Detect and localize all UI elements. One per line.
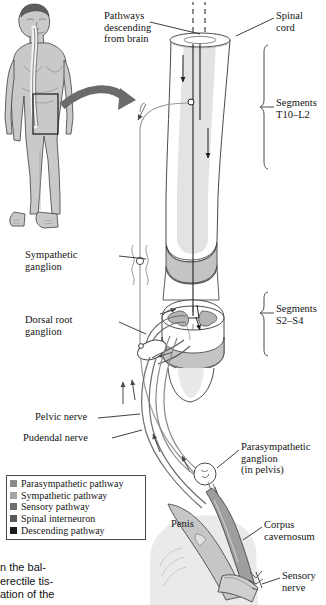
- legend-swatch-parasympathetic: [10, 480, 17, 487]
- label-pudendal-nerve: Pudendal nerve: [23, 432, 119, 444]
- label-segments-s2-s4: Segments S2–S4: [276, 303, 326, 326]
- bracket-segments-upper: [260, 45, 274, 169]
- legend-item: Sensory pathway: [10, 501, 142, 513]
- parasympathetic-ganglion-node: [194, 463, 216, 485]
- legend-swatch-sensory: [10, 503, 17, 510]
- legend-item: Descending pathway: [10, 524, 142, 536]
- caption-text-fragment: n the bal- erectile tis- ation of the: [0, 561, 104, 602]
- label-penis: Penis: [171, 518, 211, 530]
- legend-swatch-sympathetic: [10, 492, 17, 499]
- legend-swatch-descending: [10, 527, 17, 534]
- label-pathways-descending-from-brain: Pathways descending from brain: [104, 10, 182, 45]
- label-corpus-cavernosum: Corpus cavernosum: [264, 519, 326, 542]
- cord-top-inner-ring: [184, 36, 216, 43]
- figure-page: Pathways descending from brain Spinal co…: [0, 0, 326, 605]
- label-segments-t10-l2: Segments T10–L2: [276, 97, 326, 120]
- label-sensory-nerve: Sensory nerve: [282, 570, 326, 593]
- legend-item: Sympathetic pathway: [10, 490, 142, 502]
- legend-label-parasympathetic: Parasympathetic pathway: [21, 478, 123, 489]
- label-pelvic-nerve: Pelvic nerve: [35, 411, 119, 423]
- leader-dorsal-root-ganglion: [119, 322, 146, 334]
- penis-anatomy: [150, 488, 263, 605]
- leader-sensory-nerve: [262, 578, 280, 584]
- zoom-arrow: [62, 88, 136, 110]
- descending-synapse: [188, 99, 194, 105]
- spinal-cord-column: [162, 2, 230, 402]
- legend-label-descending: Descending pathway: [21, 525, 105, 536]
- label-sympathetic-ganglion: Sympathetic ganglion: [25, 249, 117, 272]
- leader-spinal-cord: [236, 18, 274, 36]
- legend-label-sympathetic: Sympathetic pathway: [21, 490, 107, 501]
- leader-parasympathetic-ganglion: [217, 450, 239, 468]
- legend-item: Spinal interneuron: [10, 513, 142, 525]
- legend-item: Parasympathetic pathway: [10, 478, 142, 490]
- bracket-segments-lower: [260, 292, 274, 356]
- label-spinal-cord: Spinal cord: [276, 10, 324, 33]
- pathway-legend: Parasympathetic pathway Sympathetic path…: [6, 475, 146, 540]
- legend-swatch-spinal-interneuron: [10, 515, 17, 522]
- legend-label-spinal-interneuron: Spinal interneuron: [21, 513, 95, 524]
- legend-label-sensory: Sensory pathway: [21, 501, 90, 512]
- label-parasympathetic-ganglion: Parasympathetic ganglion (in pelvis): [241, 441, 326, 476]
- human-figure-inset: [5, 4, 73, 228]
- label-dorsal-root-ganglion: Dorsal root ganglion: [25, 314, 117, 337]
